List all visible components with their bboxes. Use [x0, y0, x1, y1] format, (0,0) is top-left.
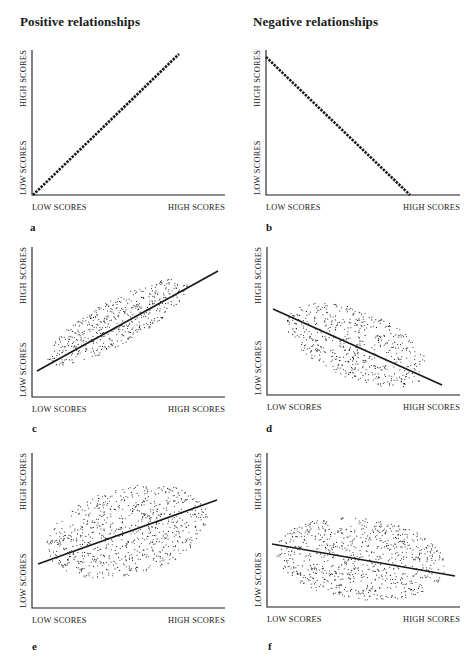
x-label-high-e: HIGH SCORES — [168, 616, 225, 625]
panel-a: LOW SCORESHIGH SCORESLOW SCORESHIGH SCOR… — [19, 50, 225, 233]
x-label-low-a: LOW SCORES — [32, 203, 87, 212]
y-label-high-b: HIGH SCORES — [253, 50, 262, 107]
y-label-low-a: LOW SCORES — [19, 140, 28, 195]
y-label-high-f: HIGH SCORES — [254, 453, 263, 510]
axes-e — [32, 453, 225, 608]
y-label-high-c: HIGH SCORES — [19, 247, 28, 304]
x-label-low-b: LOW SCORES — [266, 203, 321, 212]
x-label-high-f: HIGH SCORES — [403, 615, 460, 624]
relationship-line-a — [33, 54, 179, 195]
y-label-low-f: LOW SCORES — [254, 552, 263, 607]
panel-letter-a: a — [30, 221, 36, 233]
x-label-low-e: LOW SCORES — [32, 616, 87, 625]
y-label-high-e: HIGH SCORES — [19, 453, 28, 510]
x-label-high-b: HIGH SCORES — [403, 203, 460, 212]
panel-d: LOW SCORESHIGH SCORESLOW SCORESHIGH SCOR… — [254, 247, 460, 434]
panel-c: LOW SCORESHIGH SCORESLOW SCORESHIGH SCOR… — [19, 247, 225, 434]
panel-letter-e: e — [32, 640, 37, 652]
scatter-cloud-d — [287, 303, 425, 388]
x-label-low-f: LOW SCORES — [267, 615, 322, 624]
y-label-high-a: HIGH SCORES — [19, 50, 28, 107]
y-label-high-d: HIGH SCORES — [254, 247, 263, 304]
x-label-high-d: HIGH SCORES — [403, 403, 460, 412]
axes-b — [266, 50, 460, 195]
y-label-low-d: LOW SCORES — [254, 340, 263, 395]
panel-e: LOW SCORESHIGH SCORESLOW SCORESHIGH SCOR… — [19, 453, 225, 652]
panel-letter-f: f — [268, 640, 272, 652]
panel-f: LOW SCORESHIGH SCORESLOW SCORESHIGH SCOR… — [254, 453, 460, 652]
panel-letter-b: b — [266, 221, 272, 233]
x-label-high-a: HIGH SCORES — [168, 203, 225, 212]
y-label-low-c: LOW SCORES — [19, 342, 28, 397]
axes-a — [32, 50, 225, 195]
x-label-low-c: LOW SCORES — [32, 405, 87, 414]
panel-letter-c: c — [32, 422, 37, 434]
y-label-low-b: LOW SCORES — [253, 140, 262, 195]
axes-d — [267, 247, 460, 395]
panel-letter-d: d — [266, 422, 272, 434]
axes-f — [267, 453, 460, 607]
relationship-line-b — [266, 57, 410, 195]
relationship-line-c — [37, 271, 218, 371]
y-label-low-e: LOW SCORES — [19, 553, 28, 608]
scatter-cloud-c — [47, 279, 187, 366]
scatterplot-figure: LOW SCORESHIGH SCORESLOW SCORESHIGH SCOR… — [0, 0, 476, 657]
panel-b: LOW SCORESHIGH SCORESLOW SCORESHIGH SCOR… — [253, 50, 460, 233]
x-label-low-d: LOW SCORES — [267, 403, 322, 412]
axes-c — [32, 247, 225, 397]
x-label-high-c: HIGH SCORES — [168, 405, 225, 414]
